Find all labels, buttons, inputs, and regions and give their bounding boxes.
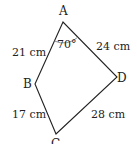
side-cd-length: 28 cm [91, 108, 126, 121]
vertex-label-c: C [51, 137, 60, 144]
side-bc-length: 17 cm [12, 108, 47, 121]
side-ab-length: 21 cm [12, 46, 47, 59]
vertex-label-b: B [23, 77, 32, 91]
side-ad-length: 24 cm [96, 40, 131, 53]
vertex-label-d: D [117, 71, 127, 85]
vertex-label-a: A [58, 4, 68, 18]
angle-a-value: 70° [57, 38, 77, 51]
quadrilateral-diagram: A B C D 70° 21 cm 24 cm 17 cm 28 cm [0, 0, 137, 144]
